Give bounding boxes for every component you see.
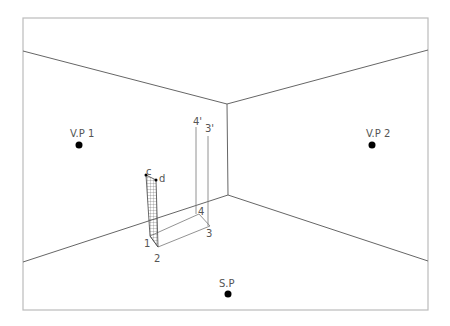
point-2-label: 2 [154,253,160,264]
sp-dot [225,291,232,298]
vp2-dot [369,142,376,149]
floor-box [150,127,210,247]
sp-label: S.P [219,278,235,289]
point-4-label: 4 [198,206,204,217]
wall-corner-line [227,104,228,195]
right-wall-ceiling-line [227,50,428,104]
point-c-label: c [146,166,152,177]
point-3prime-label: 3' [205,123,214,134]
point-3-label: 3 [206,228,212,239]
perspective-diagram: V.P 1 V.P 2 S.P 1 2 3 4 4' 3' c d [0,0,450,326]
vp1-dot [76,142,83,149]
vp2-label: V.P 2 [366,128,390,139]
room-edges [23,50,428,262]
point-4prime-label: 4' [193,116,202,127]
panel-grid [146,175,158,247]
vp1-label: V.P 1 [70,128,94,139]
picture-frame [23,18,428,310]
right-floor-line [228,195,428,261]
point-d-marker [155,179,158,182]
hatched-panel [145,174,159,248]
point-d-label: d [159,173,165,184]
point-1-label: 1 [144,238,150,249]
left-wall-ceiling-line [23,51,227,104]
